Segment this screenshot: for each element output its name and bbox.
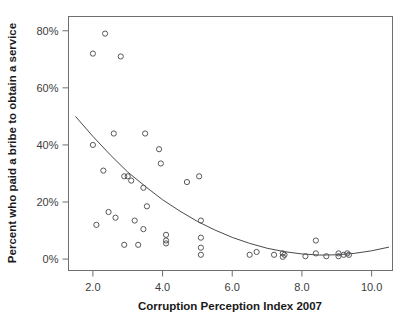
y-tick-label: 40% bbox=[36, 139, 58, 151]
data-point bbox=[198, 235, 203, 240]
x-tick-label: 8.0 bbox=[294, 281, 309, 293]
data-point bbox=[198, 245, 203, 250]
data-point bbox=[197, 174, 202, 179]
data-point bbox=[113, 215, 118, 220]
y-tick-label: 0% bbox=[43, 253, 59, 265]
y-axis-ticks bbox=[63, 31, 69, 259]
data-point bbox=[324, 254, 329, 259]
y-tick-label: 80% bbox=[36, 25, 58, 37]
data-point bbox=[106, 209, 111, 214]
data-point bbox=[118, 54, 123, 59]
fit-trend-line bbox=[75, 116, 389, 255]
data-point bbox=[271, 252, 276, 257]
plot-canvas: 2.04.06.08.010.0 0%20%40%60%80% Corrupti… bbox=[0, 0, 406, 321]
data-point bbox=[129, 178, 134, 183]
data-point bbox=[122, 242, 127, 247]
data-point bbox=[313, 238, 318, 243]
data-point bbox=[141, 227, 146, 232]
data-point bbox=[198, 218, 203, 223]
data-point bbox=[144, 204, 149, 209]
data-point bbox=[111, 131, 116, 136]
x-tick-label: 6.0 bbox=[225, 281, 240, 293]
y-tick-label: 60% bbox=[36, 82, 58, 94]
x-axis-tick-labels: 2.04.06.08.010.0 bbox=[85, 281, 382, 293]
x-tick-label: 2.0 bbox=[85, 281, 100, 293]
x-axis-title: Corruption Perception Index 2007 bbox=[138, 300, 322, 312]
data-point bbox=[247, 252, 252, 257]
data-points bbox=[90, 31, 351, 259]
y-axis-title: Percent who paid a bribe to obtain a ser… bbox=[6, 23, 18, 263]
data-point bbox=[90, 51, 95, 56]
data-point bbox=[102, 31, 107, 36]
data-point bbox=[163, 232, 168, 237]
x-axis-ticks bbox=[93, 271, 372, 277]
data-point bbox=[94, 222, 99, 227]
x-tick-label: 4.0 bbox=[155, 281, 170, 293]
data-point bbox=[254, 249, 259, 254]
data-point bbox=[156, 147, 161, 152]
scatter-plot-figure: 2.04.06.08.010.0 0%20%40%60%80% Corrupti… bbox=[0, 0, 406, 321]
y-tick-label: 20% bbox=[36, 196, 58, 208]
data-point bbox=[143, 131, 148, 136]
data-point bbox=[198, 252, 203, 257]
data-point bbox=[141, 185, 146, 190]
x-tick-label: 10.0 bbox=[361, 281, 382, 293]
data-point bbox=[101, 168, 106, 173]
y-axis-tick-labels: 0%20%40%60%80% bbox=[36, 25, 58, 265]
data-point bbox=[136, 242, 141, 247]
data-point bbox=[158, 161, 163, 166]
data-point bbox=[132, 218, 137, 223]
data-point bbox=[90, 142, 95, 147]
plot-frame bbox=[69, 17, 393, 271]
data-point bbox=[184, 179, 189, 184]
